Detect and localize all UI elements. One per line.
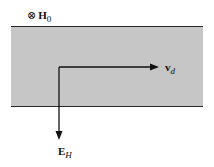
drift-velocity-label: vd xyxy=(165,62,175,73)
into-page-icon: ⊗ xyxy=(27,9,36,21)
magnetic-field-label: ⊗H0 xyxy=(27,10,51,21)
hall-field-arrow xyxy=(56,67,63,140)
vector-arrows xyxy=(0,0,214,167)
hall-field-label: EH xyxy=(58,146,72,157)
drift-velocity-arrow xyxy=(59,64,159,71)
